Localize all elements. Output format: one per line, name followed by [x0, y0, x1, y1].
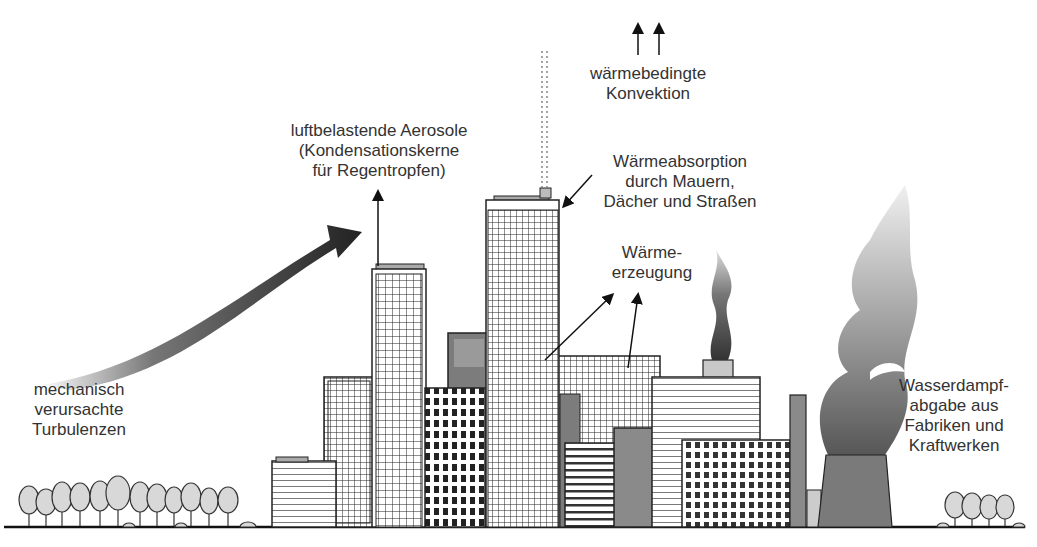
label-water-vapor: Wasserdampf- abgabe aus Fabriken und Kra…: [884, 376, 1024, 456]
tree-row-left: [19, 476, 256, 527]
label-turbulence: mechanisch verursachte Turbulenzen: [14, 380, 144, 440]
tree-row-right: [937, 492, 1025, 527]
label-absorption: Wärmeabsorption durch Mauern, Dächer und…: [580, 152, 780, 212]
curved-arrow-icon: [40, 225, 362, 390]
cooling-tower: [818, 455, 892, 527]
label-heat-generation: Wärme- erzeugung: [592, 243, 712, 283]
building: [682, 440, 790, 527]
building: [272, 461, 336, 527]
label-aerosols: luftbelastende Aerosole (Kondensationske…: [248, 121, 510, 181]
building: [614, 428, 654, 527]
urban-climate-diagram: [0, 0, 1037, 547]
aerosol-plume: [538, 48, 550, 188]
label-convection: wärmebedingte Konvektion: [578, 64, 718, 104]
factory-smoke: [711, 250, 732, 360]
building: [425, 388, 485, 527]
chimney: [790, 395, 806, 527]
